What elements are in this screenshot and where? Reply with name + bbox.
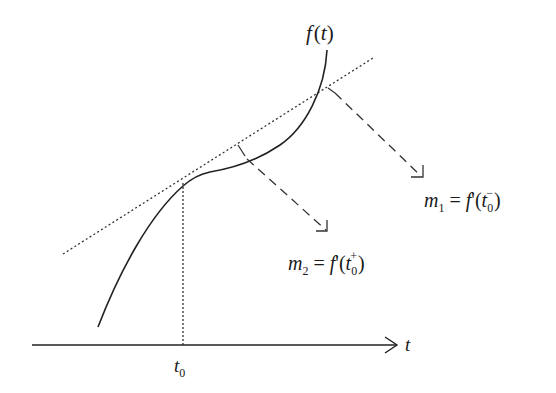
t-axis-label: t xyxy=(405,334,411,355)
m1-pointer xyxy=(328,88,423,177)
function-curve xyxy=(98,50,327,327)
m1-dashed-arrow xyxy=(335,93,421,176)
m2-pointer xyxy=(238,145,327,231)
m2-label: m2=f'(t0+) xyxy=(288,249,365,278)
t0-label: t0 xyxy=(174,355,185,380)
t-axis xyxy=(32,337,397,353)
m1-arrowhead-icon xyxy=(411,165,423,177)
diagram-canvas: t t0 f(t) m1=f'(t0−) m2=f'(t0+) xyxy=(0,0,556,393)
diagram-svg: t t0 f(t) m1=f'(t0−) m2=f'(t0+) xyxy=(0,0,556,393)
m1-label: m1=f'(t0−) xyxy=(424,186,501,215)
m1-tick xyxy=(328,88,335,93)
function-label: f(t) xyxy=(306,21,334,45)
m2-tick xyxy=(238,145,245,156)
m2-dashed-arrow xyxy=(247,159,326,230)
